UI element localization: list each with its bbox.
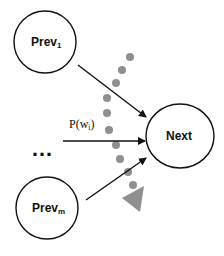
triangle-arrowhead-icon — [122, 186, 144, 212]
edge-probability-label: P(wi) — [69, 117, 95, 132]
svg-text:Next: Next — [166, 129, 192, 143]
edge-prev1-next — [78, 65, 146, 117]
svg-text:Prevm: Prevm — [32, 201, 65, 216]
svg-text:Prev1: Prev1 — [31, 35, 62, 50]
ellipsis: … — [31, 136, 53, 161]
node-prevm: Prevm — [16, 177, 78, 239]
node-next: Next — [146, 104, 214, 168]
diagram-canvas: Prev1 Prevm Next P(wi) … — [0, 0, 224, 256]
node-prev1: Prev1 — [14, 11, 76, 73]
